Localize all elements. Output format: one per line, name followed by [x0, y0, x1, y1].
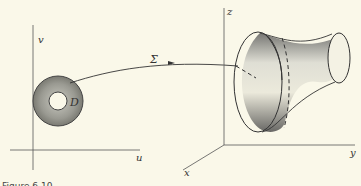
x-axis-label: x [184, 167, 190, 178]
mapping-sigma: Σ [70, 53, 238, 83]
surface-inner-rim [328, 33, 350, 83]
region-d-label: D [69, 96, 79, 109]
mapping-arrow [70, 64, 238, 83]
z-axis-label: z [226, 6, 233, 17]
parametric-surface-diagram: v u D Σ z y x Figure 6.10 [0, 0, 361, 186]
v-axis-label: v [38, 34, 44, 45]
region-d-hole [49, 92, 67, 110]
surface-sigma-d [234, 32, 350, 132]
figure-caption: Figure 6.10 [2, 181, 53, 186]
uv-plane: v u D [10, 25, 142, 170]
y-axis-label: y [349, 147, 356, 158]
sigma-label: Σ [149, 53, 158, 66]
u-axis-label: u [136, 152, 142, 163]
